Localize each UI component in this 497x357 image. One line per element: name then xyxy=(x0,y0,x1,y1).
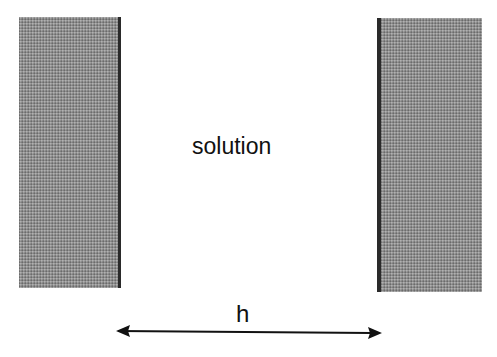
solution-label: solution xyxy=(192,133,271,160)
double-arrow-icon xyxy=(110,322,390,342)
right-plate xyxy=(377,18,482,292)
left-plate xyxy=(19,17,121,288)
